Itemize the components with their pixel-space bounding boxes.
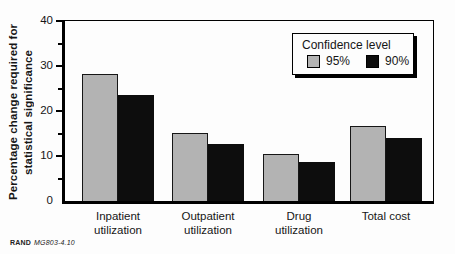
y-tick-mark-20 bbox=[56, 110, 62, 112]
figure: Percentage change required for statistic… bbox=[0, 0, 455, 254]
legend-item-90: 90% bbox=[366, 54, 409, 68]
legend-swatch-95-icon bbox=[307, 55, 320, 68]
source-note: RANDMG803-4.10 bbox=[10, 239, 75, 246]
bar-95-outpatient bbox=[172, 133, 208, 201]
y-minor-tick-mark-15 bbox=[58, 133, 62, 135]
y-tick-label-30: 30 bbox=[29, 59, 53, 71]
x-category-label-total cost: Total cost bbox=[338, 209, 434, 223]
y-tick-label-40: 40 bbox=[29, 14, 53, 26]
y-minor-tick-mark-5 bbox=[58, 178, 62, 180]
x-category-label-outpatient: Outpatient utilization bbox=[160, 209, 256, 238]
y-minor-tick-mark-25 bbox=[58, 88, 62, 90]
y-tick-label-10: 10 bbox=[29, 149, 53, 161]
bar-90-total cost bbox=[386, 138, 422, 201]
bar-90-drug bbox=[299, 162, 335, 201]
y-tick-label-20: 20 bbox=[29, 104, 53, 116]
source-brand: RAND bbox=[10, 239, 31, 246]
legend-label-90: 90% bbox=[385, 54, 409, 68]
y-tick-label-0: 0 bbox=[29, 194, 53, 206]
legend-item-95: 95% bbox=[307, 54, 350, 68]
legend-title: Confidence level bbox=[293, 34, 413, 53]
bar-95-inpatient bbox=[82, 74, 118, 201]
y-tick-mark-30 bbox=[56, 65, 62, 67]
bar-90-outpatient bbox=[208, 144, 244, 201]
y-minor-tick-mark-35 bbox=[58, 43, 62, 45]
legend-items: 95% 90% bbox=[293, 53, 413, 74]
x-category-label-inpatient: Inpatient utilization bbox=[70, 209, 166, 238]
x-category-label-drug: Drug utilization bbox=[251, 209, 347, 238]
bar-95-drug bbox=[263, 154, 299, 201]
legend: Confidence level 95% 90% bbox=[292, 33, 414, 75]
legend-swatch-90-icon bbox=[366, 55, 379, 68]
legend-label-95: 95% bbox=[326, 54, 350, 68]
y-tick-mark-10 bbox=[56, 155, 62, 157]
y-tick-mark-40 bbox=[56, 20, 62, 22]
bar-95-total cost bbox=[350, 126, 386, 201]
bar-90-inpatient bbox=[118, 95, 154, 201]
source-doc-id: MG803-4.10 bbox=[34, 239, 75, 246]
